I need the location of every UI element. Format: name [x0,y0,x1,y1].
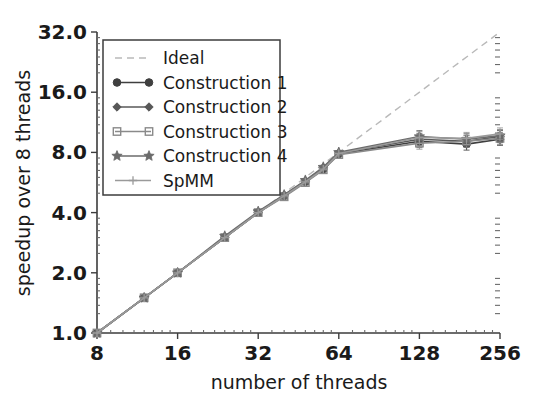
y-tick-label: 1.0 [52,321,87,345]
data-point-marker [145,79,153,87]
x-tick-label: 8 [90,341,104,365]
x-tick-label: 32 [244,341,272,365]
legend-label: Construction 2 [163,97,287,117]
y-tick-label: 4.0 [52,201,87,225]
data-point-marker [113,79,121,87]
legend-label: Construction 4 [163,146,287,166]
y-tick-label: 32.0 [38,20,87,44]
legend-label: Ideal [163,48,204,68]
speedup-scaling-chart: 1.02.04.08.016.032.08163264128256 speedu… [0,0,545,398]
x-tick-label: 16 [164,341,192,365]
circle-marker [145,79,153,87]
y-axis-title: speedup over 8 threads [12,70,34,296]
x-tick-label: 64 [325,341,353,365]
x-tick-label: 256 [479,341,521,365]
y-tick-label: 2.0 [52,261,87,285]
legend-label: Construction 3 [163,122,287,142]
chart-legend: IdealConstruction 1Construction 2Constru… [103,40,287,195]
circle-marker [113,79,121,87]
legend-label: SpMM [163,171,214,191]
x-tick-label: 128 [399,341,441,365]
y-tick-label: 16.0 [38,80,87,104]
x-axis-title: number of threads [211,371,388,393]
legend-label: Construction 1 [163,73,287,93]
chart-figure: 1.02.04.08.016.032.08163264128256 speedu… [0,0,545,398]
y-tick-label: 8.0 [52,140,87,164]
